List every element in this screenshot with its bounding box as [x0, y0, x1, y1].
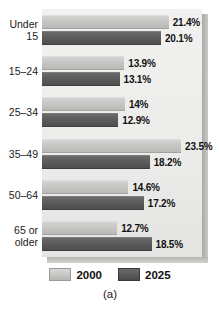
bar-value-label: 21.4%	[173, 16, 200, 27]
bar-group: 23.5%18.2%	[42, 139, 202, 171]
bar-group: 13.9%13.1%	[42, 56, 202, 88]
bar-value-label: 14%	[129, 99, 148, 110]
legend: 20002025	[0, 268, 220, 281]
legend-item-2025[interactable]: 2025	[118, 268, 171, 281]
figure-caption: (a)	[0, 288, 220, 300]
legend-label: 2000	[76, 269, 102, 281]
bar-2025	[42, 72, 120, 86]
bar-value-label: 20.1%	[165, 32, 192, 43]
plot-slab-bottom-face	[47, 257, 208, 263]
bar-2000	[42, 15, 169, 29]
category-label: 25–34	[0, 106, 38, 118]
bar-2000	[42, 221, 117, 235]
bar-value-label: 13.9%	[128, 58, 155, 69]
legend-label: 2025	[145, 269, 171, 281]
legend-item-2000[interactable]: 2000	[49, 268, 102, 281]
bar-row: 20.1%	[42, 31, 202, 45]
bar-value-label: 18.5%	[156, 239, 183, 250]
category-label: 35–49	[0, 148, 38, 160]
bar-row: 14%	[42, 97, 202, 111]
bar-group: 14%12.9%	[42, 97, 202, 129]
bar-value-label: 12.9%	[122, 115, 149, 126]
bar-row: 13.1%	[42, 72, 202, 86]
bar-2025	[42, 196, 144, 210]
bar-row: 18.2%	[42, 155, 202, 169]
bar-value-label: 14.6%	[132, 182, 159, 193]
bar-row: 23.5%	[42, 139, 202, 153]
category-axis: Under 1515–2425–3435–4950–6465 or older	[0, 9, 38, 257]
bar-2000	[42, 139, 181, 153]
category-label: 50–64	[0, 189, 38, 201]
plot-area-wrapper: 21.4%20.1%13.9%13.1%14%12.9%23.5%18.2%14…	[42, 9, 208, 262]
bar-value-label: 23.5%	[185, 140, 212, 151]
category-label: Under 15	[0, 18, 38, 42]
bar-value-label: 12.7%	[121, 223, 148, 234]
bar-group: 21.4%20.1%	[42, 15, 202, 47]
legend-swatch-2025	[118, 268, 140, 281]
bar-2025	[42, 237, 152, 251]
figure: Under 1515–2425–3435–4950–6465 or older …	[0, 0, 220, 309]
bar-row: 18.5%	[42, 237, 202, 251]
bar-value-label: 17.2%	[148, 198, 175, 209]
bar-group: 14.6%17.2%	[42, 180, 202, 212]
plot-area: 21.4%20.1%13.9%13.1%14%12.9%23.5%18.2%14…	[42, 9, 202, 257]
bar-2000	[42, 56, 124, 70]
category-label: 15–24	[0, 65, 38, 77]
bar-row: 12.7%	[42, 221, 202, 235]
bar-row: 17.2%	[42, 196, 202, 210]
bar-2000	[42, 180, 128, 194]
bar-group: 12.7%18.5%	[42, 221, 202, 253]
bar-2025	[42, 31, 161, 45]
bar-row: 14.6%	[42, 180, 202, 194]
bar-row: 12.9%	[42, 113, 202, 127]
bar-value-label: 13.1%	[124, 74, 151, 85]
bar-2000	[42, 97, 125, 111]
plot-slab-right-face	[202, 14, 208, 262]
category-label: 65 or older	[0, 224, 38, 248]
bar-2025	[42, 113, 118, 127]
legend-swatch-2000	[49, 268, 71, 281]
bar-value-label: 18.2%	[154, 156, 181, 167]
bar-row: 21.4%	[42, 15, 202, 29]
bar-2025	[42, 155, 150, 169]
bar-row: 13.9%	[42, 56, 202, 70]
